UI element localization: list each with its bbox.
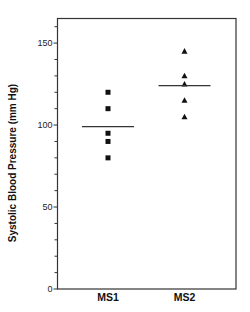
chart: 050100150 MS1MS2 Systolic Blood Pressure… [0, 0, 250, 312]
square-marker [106, 155, 111, 160]
x-axis: MS1MS2 [97, 291, 195, 303]
triangle-marker [182, 97, 188, 103]
triangle-marker [182, 114, 188, 120]
y-tick-label: 50 [42, 202, 52, 212]
square-marker [106, 106, 111, 111]
plot-border [58, 19, 237, 290]
plot-frame [58, 19, 237, 290]
square-marker [106, 139, 111, 144]
data-marks [82, 48, 211, 160]
y-axis-title: Systolic Blood Pressure (mm Hg) [7, 84, 18, 242]
triangle-marker [182, 48, 188, 54]
x-category-label: MS2 [174, 291, 196, 303]
triangle-marker [182, 73, 188, 79]
x-category-label: MS1 [97, 291, 119, 303]
y-tick-label: 150 [37, 38, 52, 48]
y-axis: 050100150 [37, 27, 57, 294]
square-marker [106, 131, 111, 136]
square-marker [106, 90, 111, 95]
y-tick-label: 0 [47, 284, 52, 294]
y-tick-label: 100 [37, 120, 52, 130]
